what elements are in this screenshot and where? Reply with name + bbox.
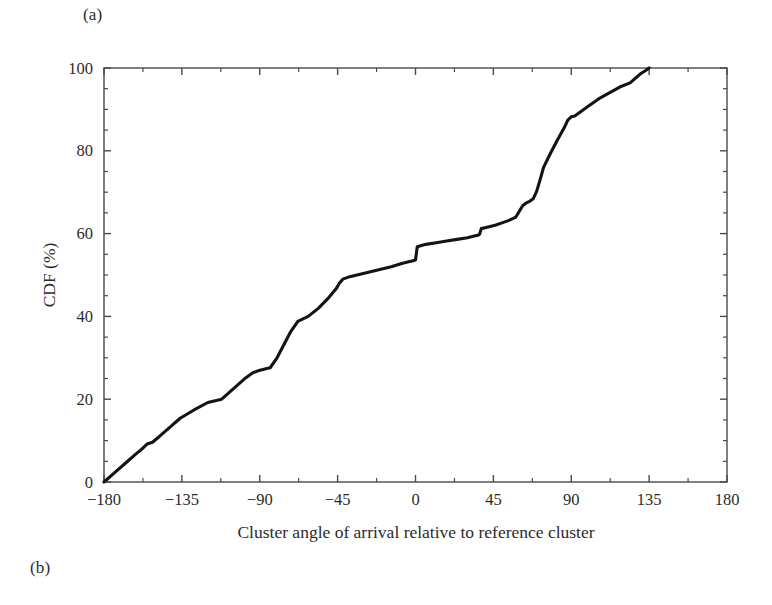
y-axis-ticks xyxy=(104,68,727,482)
x-tick-label: −180 xyxy=(87,490,121,509)
x-tick-label: −90 xyxy=(247,490,273,509)
cdf-chart: −180−135−90−4504590135180 020406080100 C… xyxy=(0,0,772,605)
x-tick-label: 0 xyxy=(411,490,419,509)
y-tick-label: 20 xyxy=(77,390,94,409)
x-tick-label: 90 xyxy=(563,490,580,509)
x-tick-label: 180 xyxy=(715,490,740,509)
x-axis-tick-labels: −180−135−90−4504590135180 xyxy=(87,490,739,509)
y-axis-title: CDF (%) xyxy=(39,243,59,308)
y-tick-label: 60 xyxy=(77,224,94,243)
cdf-curve-group xyxy=(104,68,649,482)
y-tick-label: 100 xyxy=(68,59,93,78)
x-tick-label: 45 xyxy=(485,490,502,509)
axis-frame xyxy=(104,68,727,482)
y-axis-tick-labels: 020406080100 xyxy=(68,59,93,492)
y-tick-label: 0 xyxy=(85,473,93,492)
x-tick-label: −45 xyxy=(325,490,351,509)
y-tick-label: 80 xyxy=(77,141,94,160)
figure-panel-a: (a) (b) −180−135−90−4504590135180 020406… xyxy=(0,0,772,605)
x-axis-ticks xyxy=(104,68,727,482)
cdf-curve xyxy=(104,68,649,482)
x-tick-label: −135 xyxy=(165,490,199,509)
y-tick-label: 40 xyxy=(77,307,94,326)
x-axis-title: Cluster angle of arrival relative to ref… xyxy=(237,522,594,542)
x-tick-label: 135 xyxy=(637,490,662,509)
